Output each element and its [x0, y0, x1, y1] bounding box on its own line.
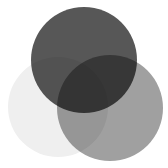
venn-canvas — [0, 0, 168, 168]
circle-right — [57, 55, 163, 161]
venn-diagram — [0, 0, 168, 168]
